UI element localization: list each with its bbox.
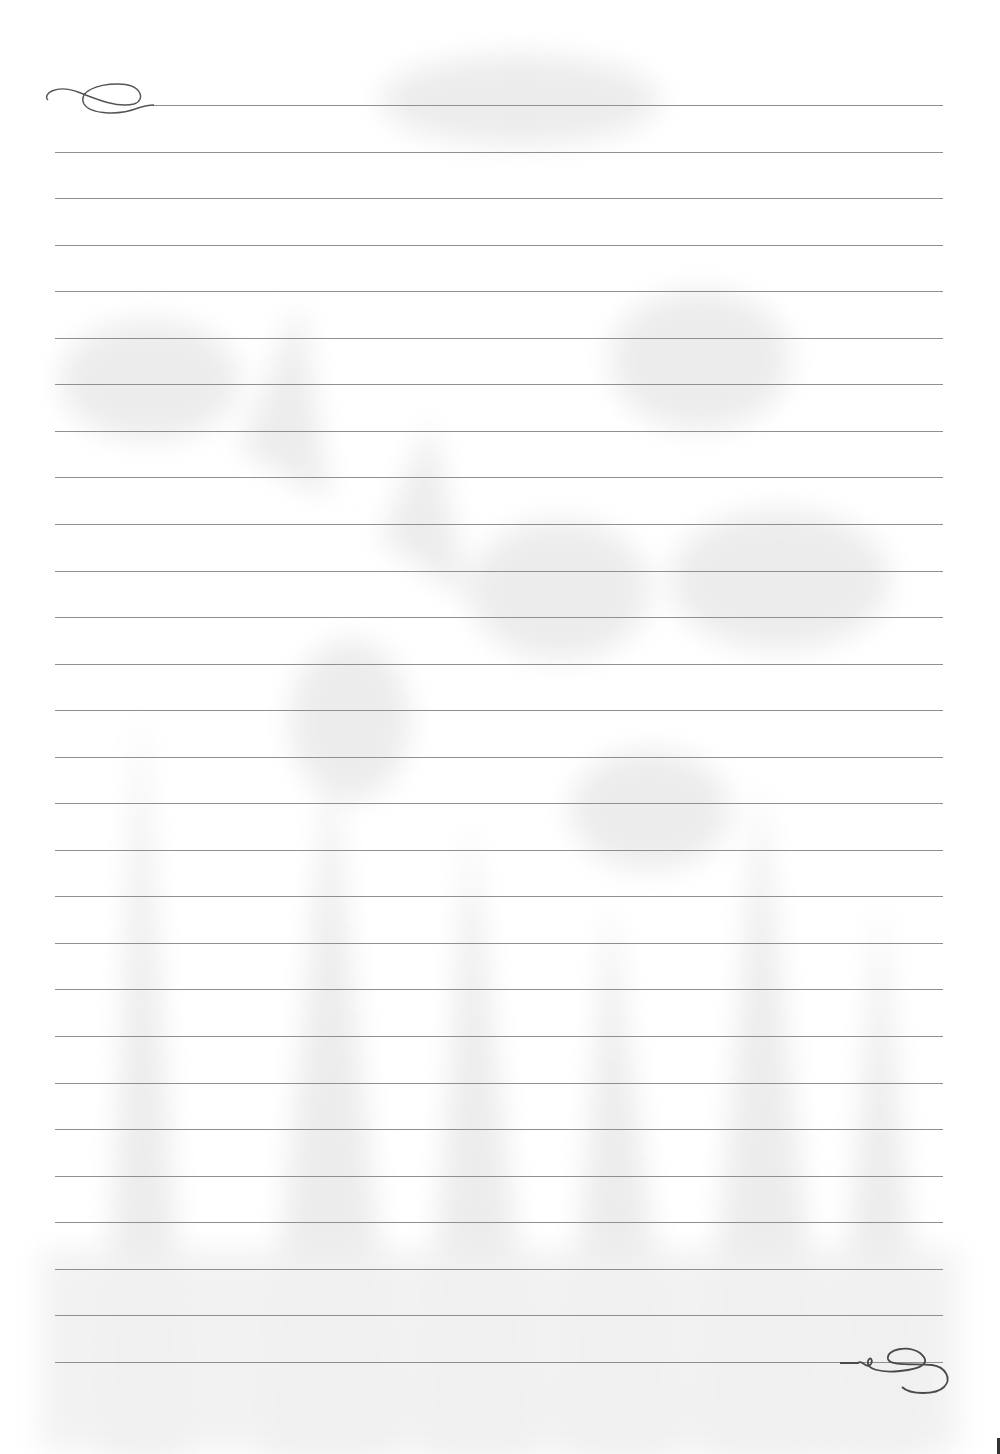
floral-watermark — [0, 0, 1000, 1454]
ruled-line — [55, 664, 943, 665]
ruled-line — [55, 1036, 943, 1037]
ruled-line — [55, 803, 943, 804]
ruled-line — [55, 1269, 943, 1270]
ruled-line — [150, 105, 943, 106]
ruled-line — [55, 943, 943, 944]
ruled-line — [55, 524, 943, 525]
ruled-line — [55, 291, 943, 292]
ruled-line — [55, 571, 943, 572]
ruled-line — [55, 384, 943, 385]
ruled-line — [55, 1315, 943, 1316]
ruled-line — [55, 431, 943, 432]
ruled-line — [55, 198, 943, 199]
ruled-line — [55, 617, 943, 618]
ruled-line — [55, 1176, 943, 1177]
ruled-line — [55, 477, 943, 478]
ruled-line — [55, 850, 943, 851]
top-left-flourish-icon — [38, 78, 158, 128]
ruled-line — [55, 245, 943, 246]
ruled-line — [55, 757, 943, 758]
ruled-line — [55, 1129, 943, 1130]
ruled-line — [55, 152, 943, 153]
ruled-line — [55, 338, 943, 339]
ruled-line — [55, 1083, 943, 1084]
ruled-line — [55, 1362, 943, 1363]
ruled-line — [55, 896, 943, 897]
bottom-right-flourish-icon — [840, 1335, 970, 1415]
ruled-line — [55, 1222, 943, 1223]
ruled-line — [55, 710, 943, 711]
ruled-line — [55, 989, 943, 990]
